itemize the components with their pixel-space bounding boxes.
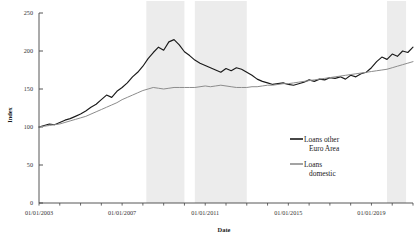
legend-label-loans-domestic-line1: Loans [304, 160, 322, 169]
y-tick-label: 150 [24, 85, 33, 92]
y-tick-label: 250 [24, 9, 33, 16]
x-tick-label: 01/01/2015 [274, 209, 302, 216]
x-axis-title: Date [218, 226, 231, 233]
y-tick-label: 50 [27, 161, 33, 168]
shaded-band [195, 1, 247, 203]
y-axis-title: Index [6, 106, 13, 122]
x-tick-label: 01/01/2007 [108, 209, 136, 216]
legend-label-loans-other-euro-area-line2: Euro Area [309, 144, 340, 153]
x-tick-label: 01/01/2003 [25, 209, 53, 216]
legend-label-loans-other-euro-area-line1: Loans other [304, 135, 340, 144]
shaded-band [146, 1, 184, 203]
line-chart: 050100150200250 01/01/200301/01/200701/0… [0, 0, 416, 238]
legend-label-loans-domestic-line2: domestic [309, 169, 336, 178]
chart-container: 050100150200250 01/01/200301/01/200701/0… [0, 0, 416, 238]
x-tick-label: 01/01/2011 [191, 209, 219, 216]
shaded-band [387, 1, 406, 203]
y-tick-label: 200 [24, 47, 33, 54]
x-tick-label: 01/01/2019 [357, 209, 385, 216]
y-tick-label: 100 [24, 123, 33, 130]
y-tick-label: 0 [30, 199, 33, 206]
